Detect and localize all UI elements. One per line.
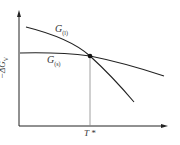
curve-g-liquid [26,27,134,102]
label-g-liquid-sub: (l) [62,30,68,36]
y-axis-label-main: −ΔG [0,61,7,79]
x-axis-tick-t-star: T * [84,128,96,138]
label-g-liquid: G(l) [55,23,68,36]
label-g-solid-sub: (s) [54,61,60,67]
t-star-text: T * [84,128,96,138]
y-axis-label: −ΔGV [0,57,9,79]
intersection-point-marker [88,54,93,59]
x-axis-arrow-icon [161,124,168,128]
y-axis-label-sub: V [3,57,9,61]
y-axis-arrow-icon [17,10,21,17]
diagram-canvas [0,0,180,145]
label-g-solid: G(s) [47,54,61,67]
